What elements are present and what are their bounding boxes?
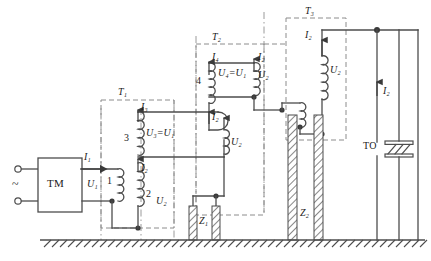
- insulator-label-Z1: Z₁: [199, 216, 208, 226]
- terminal-bottom: [15, 198, 21, 204]
- current-label-I2-t2b: I₂: [258, 52, 265, 62]
- terminal-top: [15, 166, 21, 172]
- voltage-label-U2-t1: U₂: [156, 196, 167, 206]
- z1-column-right: [212, 206, 220, 240]
- winding-number-4: 4: [196, 76, 201, 86]
- ground: [40, 240, 427, 247]
- winding-1: [118, 169, 124, 202]
- transformer-label-T2: T₂: [212, 32, 221, 42]
- ground-hatching: [44, 240, 427, 247]
- voltage-label-U4: U₄=U₁: [218, 68, 246, 78]
- current-label-I1: I₁: [84, 152, 91, 162]
- current-label-I3: I₃: [141, 102, 148, 112]
- winding-number-2: 2: [146, 189, 151, 199]
- winding-number-3: 3: [124, 133, 129, 143]
- voltage-label-U1: U₁: [87, 179, 98, 189]
- transformer-label-T1: T₁: [118, 87, 127, 97]
- z2-column-left: [288, 115, 297, 240]
- current-label-I2-t3: I₂: [305, 30, 312, 40]
- load-label-TO: TO: [363, 141, 377, 151]
- current-label-I2-t1: I₂: [141, 163, 148, 173]
- ac-source-symbol: ~: [12, 178, 19, 190]
- voltage-label-U2-t2b: U₂: [258, 70, 269, 80]
- current-label-I2-t2: I₂: [212, 112, 219, 122]
- z1-column-left: [189, 206, 197, 240]
- to-hatch: [388, 145, 410, 155]
- winding-t3-secondary: [322, 56, 328, 100]
- voltage-label-U2-t3: U₂: [330, 65, 341, 75]
- insulator-label-Z2: Z₂: [300, 208, 309, 218]
- transformer-label-T3: T₃: [305, 6, 314, 16]
- winding-t3-primary: [300, 103, 306, 128]
- circuit-diagram: ~ TM I₁ U₁ 1 T₁ I₃ 3 I₂ 2 U₂ U₃=U₁ T₂ I₄…: [0, 0, 431, 261]
- current-label-I4: I₄: [212, 52, 219, 62]
- winding-t2-u2: [224, 130, 229, 154]
- z2-column-right: [314, 115, 323, 240]
- current-label-I2-out: I₂: [383, 86, 390, 96]
- voltage-label-U2-t2: U₂: [231, 137, 242, 147]
- winding-number-1: 1: [107, 176, 112, 186]
- voltage-label-U3: U₃=U₁: [146, 128, 174, 138]
- phase-separator-lines: [101, 12, 264, 240]
- tm-label: TM: [47, 178, 64, 189]
